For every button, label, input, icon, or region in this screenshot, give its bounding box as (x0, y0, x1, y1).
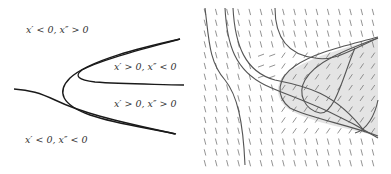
region-label-top-left: x′ < 0, x″ > 0 (26, 24, 89, 35)
region-label-inner: x′ > 0, x″ < 0 (114, 61, 177, 72)
lower-branch-curve (14, 89, 176, 134)
region-label-bottom-left: x′ < 0, x″ < 0 (25, 134, 88, 145)
left-panel-region-diagram: x′ < 0, x″ > 0 x′ > 0, x″ < 0 x′ > 0, x″… (0, 0, 195, 174)
slope-field-plot (195, 0, 391, 174)
region-label-right-lower: x′ > 0, x″ > 0 (114, 98, 177, 109)
right-panel-slope-field (195, 0, 391, 174)
outer-parabola-curve (63, 39, 180, 134)
